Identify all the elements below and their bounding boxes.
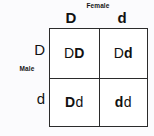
male-parent-label: Male — [10, 65, 44, 72]
male-allele: d — [115, 94, 124, 110]
male-allele-header-1: d — [27, 90, 45, 108]
punnett-grid: DD Dd Dd dd — [49, 28, 148, 127]
punnett-square-figure: Female Male D d D d DD Dd Dd dd — [0, 0, 154, 136]
punnett-cell: DD — [50, 29, 99, 78]
female-allele: d — [124, 45, 133, 61]
female-allele-header-0: D — [58, 9, 84, 27]
female-allele: d — [75, 94, 83, 110]
male-allele: D — [114, 45, 124, 61]
genotype-text: DD — [64, 45, 85, 61]
genotype-text: Dd — [114, 45, 133, 61]
genotype-text: Dd — [65, 94, 83, 110]
genotype-text: dd — [115, 94, 132, 110]
punnett-cell: Dd — [50, 78, 99, 127]
female-allele: d — [124, 94, 132, 110]
punnett-cell: dd — [99, 78, 148, 127]
female-parent-label: Female — [76, 2, 120, 9]
male-allele: D — [65, 94, 75, 110]
punnett-cell: Dd — [99, 29, 148, 78]
male-allele: D — [64, 45, 74, 61]
female-allele-header-1: d — [109, 9, 135, 27]
male-allele-header-0: D — [27, 41, 45, 59]
female-allele: D — [74, 45, 84, 61]
